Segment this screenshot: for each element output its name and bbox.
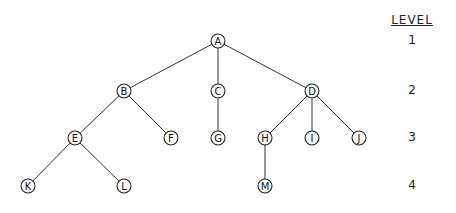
- level-label-2: 2: [382, 83, 442, 97]
- node-label: M: [261, 181, 270, 192]
- node-g: G: [211, 131, 225, 145]
- node-label: C: [215, 86, 222, 97]
- edge-a-d: [218, 41, 312, 91]
- node-label: G: [214, 133, 222, 144]
- node-b: B: [117, 84, 131, 98]
- edge-b-f: [124, 91, 171, 138]
- edge-b-e: [75, 91, 124, 138]
- tree-edges: [28, 41, 359, 186]
- edge-d-h: [265, 91, 312, 138]
- node-f: F: [164, 131, 178, 145]
- node-j: J: [352, 131, 366, 145]
- node-label: A: [215, 36, 222, 47]
- node-i: I: [305, 131, 319, 145]
- node-label: J: [357, 133, 361, 144]
- node-c: C: [211, 84, 225, 98]
- node-label: K: [25, 181, 32, 192]
- edge-d-j: [312, 91, 359, 138]
- edge-a-b: [124, 41, 218, 91]
- node-a: A: [211, 34, 225, 48]
- node-label: H: [261, 133, 269, 144]
- tree-nodes: ABCDEFGHIJKLM: [21, 34, 366, 193]
- level-label-3: 3: [382, 130, 442, 144]
- node-l: L: [117, 179, 131, 193]
- level-header: LEVEL: [382, 13, 442, 27]
- level-label-4: 4: [382, 178, 442, 192]
- node-d: D: [305, 84, 319, 98]
- node-k: K: [21, 179, 35, 193]
- node-label: E: [72, 133, 78, 144]
- node-label: D: [308, 86, 316, 97]
- node-e: E: [68, 131, 82, 145]
- edge-e-l: [75, 138, 124, 186]
- node-h: H: [258, 131, 272, 145]
- edge-e-k: [28, 138, 75, 186]
- node-m: M: [258, 179, 272, 193]
- node-label: L: [121, 181, 127, 192]
- node-label: F: [168, 133, 174, 144]
- level-label-1: 1: [382, 33, 442, 47]
- node-label: I: [311, 133, 314, 144]
- node-label: B: [121, 86, 128, 97]
